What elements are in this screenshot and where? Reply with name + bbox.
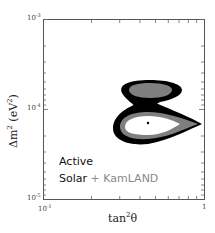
contour-regions (113, 80, 202, 144)
best-fit-point (147, 122, 149, 124)
annotation-solar-kamland: Solar + KamLAND (59, 172, 158, 185)
ytick-1e-5: 10-5 (27, 192, 41, 202)
xtick-1: 1 (202, 203, 206, 211)
ytick-1e-4: 10-4 (27, 102, 41, 112)
chart: 10-3 10-4 10-5 10-1 1 tan2θ Δm2 (eV2) Ac… (0, 0, 215, 233)
y-axis-label: Δm2 (eV2) (6, 94, 20, 148)
y-ticks (43, 20, 204, 196)
annotation-active: Active (59, 155, 93, 168)
x-axis-label: tan2θ (108, 211, 137, 225)
middle-region-upper (129, 83, 172, 98)
xtick-1e-1: 10-1 (38, 203, 52, 213)
ytick-1e-3: 10-3 (27, 12, 41, 22)
